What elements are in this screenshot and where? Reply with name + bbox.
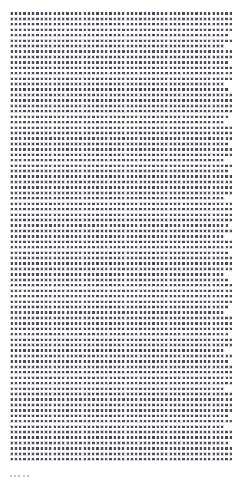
text-glyph (229, 457, 233, 462)
document-page (0, 0, 243, 484)
document-text-block (10, 11, 233, 464)
page-footer-fragment (9, 472, 35, 480)
footer-glyph (26, 472, 30, 480)
text-line (10, 457, 233, 462)
